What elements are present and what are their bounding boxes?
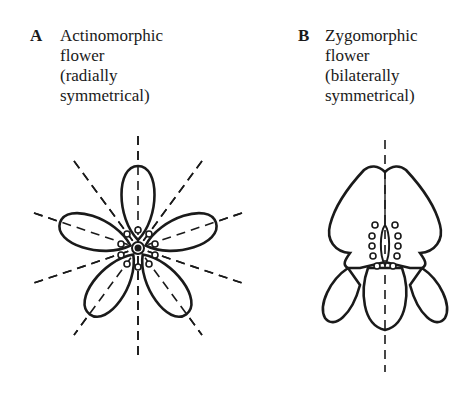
lower-left-petal: [323, 268, 360, 322]
actinomorphic-flower: [34, 136, 242, 360]
flower-diagrams: [0, 0, 467, 393]
lower-right-petal: [410, 268, 447, 322]
zygomorphic-flower: [323, 140, 447, 372]
pistil-center: [132, 242, 144, 254]
